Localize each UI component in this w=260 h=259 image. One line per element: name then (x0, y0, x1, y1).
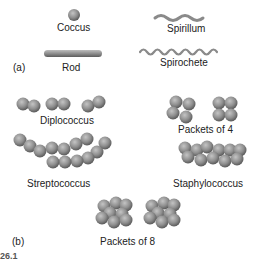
coccus-shape (68, 9, 80, 21)
label-spirillum: Spirillum (167, 24, 205, 34)
packets-of-8-cells (96, 197, 181, 229)
label-packets-of-4: Packets of 4 (178, 125, 233, 135)
label-spirochete: Spirochete (160, 58, 208, 68)
label-packets-of-8: Packets of 8 (100, 237, 155, 247)
label-rod: Rod (62, 63, 80, 73)
panel-a-label: (a) (13, 63, 25, 73)
panel-b-label: (b) (12, 237, 24, 247)
staphylococcus-cells (179, 141, 247, 168)
label-streptococcus: Streptococcus (27, 179, 90, 189)
caption-fragment: 26.1 (0, 252, 18, 259)
label-coccus: Coccus (57, 23, 90, 33)
spirillum-shape (155, 16, 203, 21)
streptococcus-cells (14, 133, 112, 169)
packets-of-4-cells (167, 96, 238, 124)
diplococcus-cells (17, 96, 106, 113)
label-staphylococcus: Staphylococcus (173, 179, 243, 189)
spirochete-shape (140, 50, 217, 55)
rod-shape (44, 50, 102, 57)
label-diplococcus: Diplococcus (40, 116, 94, 126)
